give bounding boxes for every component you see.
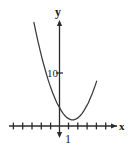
x-tick-label-1: 1 xyxy=(65,132,71,146)
parabola-graph-figure: x y 10 1 xyxy=(0,0,132,157)
x-axis-label: x xyxy=(119,120,125,132)
y-tick-label-10: 10 xyxy=(47,67,59,79)
y-axis-label: y xyxy=(55,5,61,19)
plot-canvas: x y 10 1 xyxy=(0,0,132,157)
